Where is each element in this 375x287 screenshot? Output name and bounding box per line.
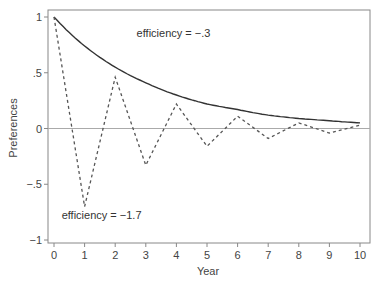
x-tick-label: 6 bbox=[235, 249, 241, 261]
x-tick-label: 7 bbox=[265, 249, 271, 261]
x-tick-label: 2 bbox=[112, 249, 118, 261]
x-tick-label: 10 bbox=[354, 249, 366, 261]
y-tick-label: −1 bbox=[29, 234, 42, 246]
x-tick-label: 5 bbox=[204, 249, 210, 261]
x-axis-title: Year bbox=[197, 265, 220, 277]
x-axis: 012345678910 bbox=[51, 243, 366, 261]
x-tick-label: 4 bbox=[173, 249, 179, 261]
annotation-efficiency-minus-1.7: efficiency = −1.7 bbox=[62, 209, 142, 221]
annotation-efficiency-minus-0.3: efficiency = −.3 bbox=[137, 27, 211, 39]
y-tick-label: .5 bbox=[33, 67, 42, 79]
y-tick-label: −.5 bbox=[26, 178, 42, 190]
y-tick-label: 1 bbox=[36, 11, 42, 23]
x-tick-label: 0 bbox=[51, 249, 57, 261]
line-chart: 1.50−.5−1 012345678910 efficiency = −.3 … bbox=[0, 0, 375, 287]
y-axis-title: Preferences bbox=[7, 98, 19, 158]
x-tick-label: 8 bbox=[296, 249, 302, 261]
y-axis: 1.50−.5−1 bbox=[26, 11, 48, 246]
x-tick-label: 1 bbox=[82, 249, 88, 261]
y-tick-label: 0 bbox=[36, 123, 42, 135]
x-tick-label: 3 bbox=[143, 249, 149, 261]
x-tick-label: 9 bbox=[326, 249, 332, 261]
series-efficiency-minus-1.7 bbox=[54, 17, 360, 207]
